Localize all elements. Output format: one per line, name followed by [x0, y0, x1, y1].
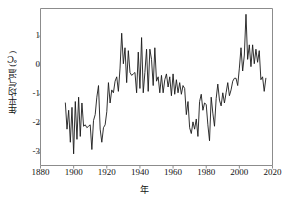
axis-frame [41, 9, 273, 166]
temperature-series-line [65, 14, 266, 154]
plot-area [0, 0, 289, 201]
temperature-line-chart: 年平均气温 (℃) 10-1-2-3 188019001920194019601… [0, 0, 289, 201]
x-axis-title: 年 [0, 183, 289, 196]
